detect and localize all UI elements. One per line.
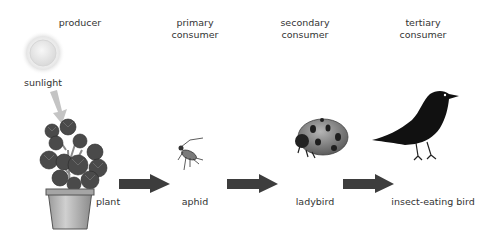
insect-eating-bird-icon	[372, 91, 459, 160]
sunlight-label: sunlight	[18, 77, 68, 89]
plant-icon	[40, 119, 107, 229]
organism-label-ladybird: ladybird	[285, 196, 345, 208]
aphid-icon	[178, 138, 203, 170]
organism-label-aphid: aphid	[170, 196, 220, 208]
organism-label-ladybird-text: ladybird	[296, 196, 335, 207]
sun-icon	[21, 31, 65, 75]
organism-label-bird-text: insect-eating bird	[391, 196, 474, 207]
organism-label-insect-eating-bird: insect-eating bird	[383, 196, 483, 208]
organism-label-aphid-text: aphid	[182, 196, 209, 207]
sunlight-arrow-icon	[50, 90, 67, 124]
arrow-plant-to-aphid-icon	[119, 174, 170, 193]
arrow-ladybird-to-bird-icon	[343, 174, 394, 193]
sunlight-label-text: sunlight	[24, 77, 62, 88]
organism-label-plant-text: plant	[96, 196, 120, 207]
organism-label-plant: plant	[88, 196, 128, 208]
ladybird-icon	[295, 118, 348, 158]
arrow-aphid-to-ladybird-icon	[227, 174, 278, 193]
